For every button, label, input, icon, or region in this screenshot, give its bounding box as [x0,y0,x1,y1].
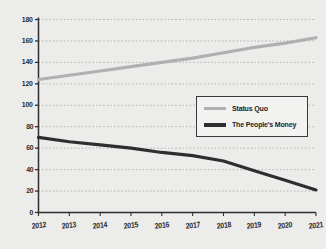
legend-label-status-quo: Status Quo [232,104,268,113]
legend-item-the-peoples-money: The People's Money [197,117,307,133]
legend-swatch-status-quo [204,107,226,110]
y-tick-label: 60 [26,143,33,152]
y-tick-label: 140 [22,57,33,66]
y-tick-label: 20 [26,186,33,195]
y-tick-label: 120 [22,79,33,88]
legend-label-the-peoples-money: The People's Money [232,120,296,129]
legend-swatch-the-peoples-money [204,123,226,127]
y-tick-label: 180 [22,15,33,24]
y-tick-label: 40 [26,165,33,174]
y-tick-label: 100 [22,100,33,109]
y-tick-label: 0 [29,208,33,217]
legend-item-status-quo: Status Quo [197,101,307,117]
y-tick-label: 160 [22,36,33,45]
line-chart: 020406080100120140160180 201220132014201… [0,0,326,249]
series-line-1 [39,137,317,190]
chart-legend: Status Quo The People's Money [196,96,308,137]
series-line-0 [39,38,317,80]
y-tick-label: 80 [26,122,33,131]
